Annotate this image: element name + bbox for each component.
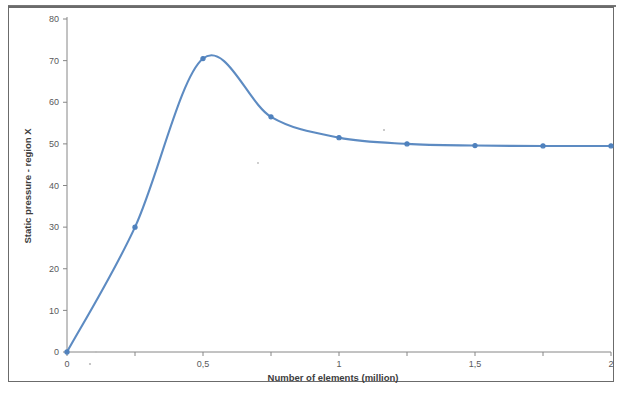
- y-axis-tick-labels: 01020304050607080: [49, 14, 59, 357]
- y-tick-label: 60: [49, 97, 59, 107]
- x-tick-label: 0: [64, 359, 69, 369]
- x-axis-ticks: [67, 352, 611, 356]
- chart-canvas: 01020304050607080 00,511,52 Number of el…: [0, 0, 622, 403]
- x-tick-label: 1,5: [469, 359, 482, 369]
- y-axis-ticks: [63, 19, 67, 352]
- y-tick-label: 30: [49, 222, 59, 232]
- data-point-marker: [65, 350, 69, 354]
- data-point-marker: [609, 144, 613, 148]
- data-point-marker: [133, 225, 137, 229]
- x-axis-title: Number of elements (million): [268, 372, 399, 383]
- x-axis-tick-labels: 00,511,52: [64, 359, 613, 369]
- y-tick-label: 0: [54, 347, 59, 357]
- y-tick-label: 40: [49, 181, 59, 191]
- y-tick-label: 80: [49, 14, 59, 24]
- x-tick-label: 2: [608, 359, 613, 369]
- x-tick-label: 1: [336, 359, 341, 369]
- y-tick-label: 10: [49, 306, 59, 316]
- scan-speck: [89, 363, 91, 365]
- scan-speck: [257, 162, 259, 164]
- data-point-marker: [541, 144, 545, 148]
- y-axis-title: Static pressure - region X: [22, 128, 33, 244]
- x-tick-label: 0,5: [197, 359, 210, 369]
- data-point-marker: [269, 115, 273, 119]
- data-point-marker: [473, 143, 477, 147]
- y-tick-label: 70: [49, 56, 59, 66]
- data-series-line: [67, 55, 611, 352]
- chart-page: 01020304050607080 00,511,52 Number of el…: [0, 0, 622, 403]
- scan-speck: [95, 351, 97, 353]
- scan-speck: [383, 129, 385, 131]
- data-series-markers: [65, 56, 613, 354]
- data-point-marker: [405, 142, 409, 146]
- line-chart: 01020304050607080 00,511,52 Number of el…: [0, 0, 622, 403]
- data-point-marker: [201, 56, 205, 60]
- y-tick-label: 50: [49, 139, 59, 149]
- y-tick-label: 20: [49, 264, 59, 274]
- data-point-marker: [337, 136, 341, 140]
